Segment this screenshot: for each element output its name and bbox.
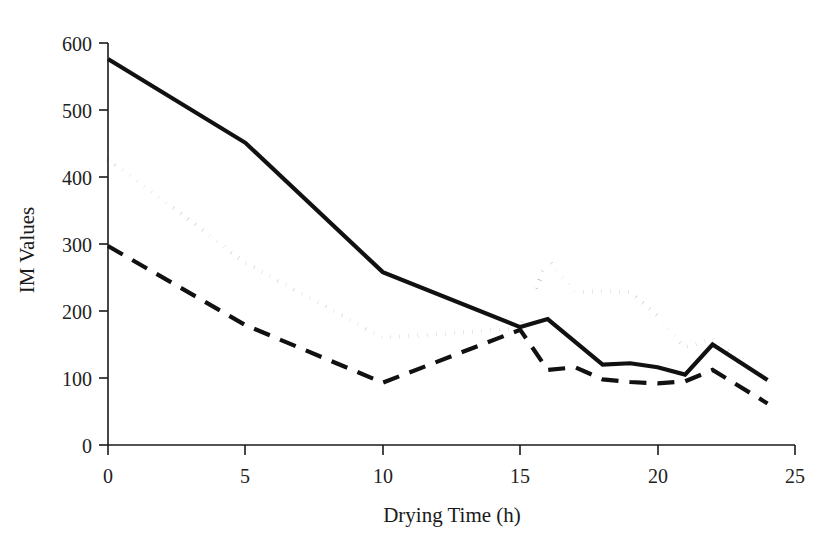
y-tick-labels: 600 500 400 300 200 100 0 <box>62 33 92 457</box>
y-tick-marks <box>99 43 108 445</box>
x-tick-label: 25 <box>785 465 805 487</box>
x-tick-labels: 0 5 10 15 20 25 <box>103 465 805 487</box>
y-tick-label: 100 <box>62 368 92 390</box>
series-line-dashed <box>108 246 768 403</box>
x-axis-title: Drying Time (h) <box>383 503 521 527</box>
y-tick-label: 500 <box>62 100 92 122</box>
x-tick-marks <box>108 445 795 455</box>
y-tick-label: 400 <box>62 167 92 189</box>
x-tick-label: 10 <box>373 465 393 487</box>
y-tick-label: 600 <box>62 33 92 55</box>
series-layer <box>108 59 768 403</box>
series-line-solid <box>108 59 768 380</box>
y-tick-label: 300 <box>62 234 92 256</box>
y-tick-label: 0 <box>82 435 92 457</box>
y-axis-title: IM Values <box>15 207 39 294</box>
x-tick-label: 5 <box>240 465 250 487</box>
x-tick-label: 20 <box>648 465 668 487</box>
x-tick-label: 0 <box>103 465 113 487</box>
x-tick-label: 15 <box>510 465 530 487</box>
chart-container: 600 500 400 300 200 100 0 0 5 10 15 20 2… <box>0 0 837 546</box>
line-chart: 600 500 400 300 200 100 0 0 5 10 15 20 2… <box>0 0 837 546</box>
y-tick-label: 200 <box>62 301 92 323</box>
series-line-dotted <box>108 159 768 383</box>
